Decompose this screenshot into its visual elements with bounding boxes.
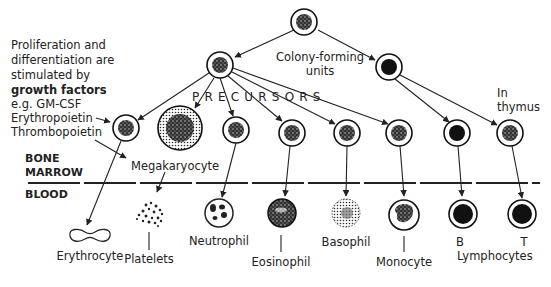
platelets-label: Platelets xyxy=(124,252,174,266)
t-label: T xyxy=(519,235,528,249)
b-lymphocyte-icon xyxy=(449,200,477,228)
b-label: B xyxy=(456,235,464,249)
intro-line-2: differentiation are xyxy=(11,53,114,67)
intro-erythropoietin: Erythropoietin xyxy=(11,111,93,125)
precursor-neutrophil xyxy=(223,117,249,143)
intro-growth-factors: growth factors xyxy=(11,83,107,97)
arrow-to-t-lymphocyte xyxy=(512,146,522,198)
eosinophil-label: Eosinophil xyxy=(252,255,311,269)
nucleus-icon xyxy=(296,14,312,30)
lymphocytes-label: Lymphocytes xyxy=(457,249,533,263)
precursor-t-lymphocyte xyxy=(497,120,523,146)
precursor-erythroid xyxy=(113,115,139,141)
erythropoietin-arrow xyxy=(96,118,110,122)
intro-line-5: e.g. GM-CSF xyxy=(11,97,81,111)
intro-line-3: stimulated by xyxy=(11,68,90,82)
precursor-b-lymphocyte xyxy=(444,120,470,146)
arrow-to-basophil-mature xyxy=(346,146,347,196)
eosinophil-icon xyxy=(268,199,296,227)
haemopoiesis-diagram: Proliferation and differentiation are st… xyxy=(0,0,551,287)
arrow-to-eosinophil-mature xyxy=(285,146,290,196)
thymus-label-1: In xyxy=(497,86,508,100)
precursor-basophil xyxy=(334,120,360,146)
precursor-eosinophil xyxy=(279,120,305,146)
arrow-to-b-lymphocyte xyxy=(458,146,462,196)
stem-label-1: Colony-forming xyxy=(276,50,364,64)
erythrocyte-label: Erythrocyte xyxy=(57,249,124,263)
thrombopoietin-arrow xyxy=(95,140,126,158)
monocyte-icon xyxy=(389,200,419,230)
monocyte-label: Monocyte xyxy=(376,255,432,269)
erythrocyte-icon xyxy=(70,229,110,241)
neutrophil-label: Neutrophil xyxy=(189,234,249,248)
intro-line-1: Proliferation and xyxy=(11,38,106,52)
region-bone: BONE xyxy=(25,152,59,165)
arrow-to-t-precursor xyxy=(400,75,497,125)
neutrophil-icon xyxy=(205,199,233,227)
region-marrow: MARROW xyxy=(25,166,83,179)
stem-label-2: units xyxy=(306,64,334,78)
colony-forming-unit-lymphoid xyxy=(376,54,402,80)
nucleus-icon xyxy=(381,59,397,75)
megakaryocyte-label: Megakaryocyte xyxy=(131,159,219,173)
colony-forming-unit-top xyxy=(291,9,317,35)
arrow-to-monocyte-mature xyxy=(400,146,404,196)
arrow-to-b-precursor xyxy=(395,79,449,122)
arrow-to-neutrophil-mature xyxy=(222,143,236,197)
colony-forming-unit-myeloid xyxy=(207,52,233,78)
platelets-icon xyxy=(136,202,163,227)
precursor-monocyte xyxy=(386,120,412,146)
thymus-label-2: thymus xyxy=(497,100,540,114)
intro-thrombopoietin: Thrombopoietin xyxy=(10,125,102,139)
intro-text: Proliferation and differentiation are st… xyxy=(10,38,114,139)
basophil-label: Basophil xyxy=(322,235,371,249)
region-blood: BLOOD xyxy=(25,188,68,201)
precursor-megakaryocyte xyxy=(158,106,202,150)
nucleus-icon xyxy=(212,57,228,73)
basophil-icon xyxy=(332,199,360,227)
t-lymphocyte-icon xyxy=(508,200,536,228)
